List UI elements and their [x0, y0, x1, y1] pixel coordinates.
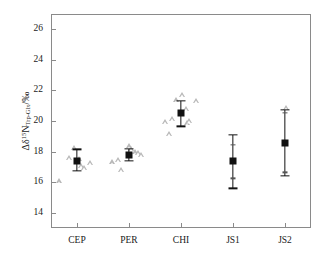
mean-marker-js2 [282, 140, 289, 147]
y-tick-label: 24 [19, 55, 43, 65]
triangle-fill [88, 163, 92, 166]
error-bar-cap-lower [73, 170, 82, 171]
error-bar-cap-lower [281, 175, 290, 176]
mean-marker-cep [74, 157, 81, 164]
x-tick-label-per: PER [120, 236, 137, 246]
y-tick-label: 20 [19, 116, 43, 126]
x-tick-label-js2: JS2 [278, 236, 292, 246]
x-tick-mark [181, 223, 182, 228]
triangle-fill [82, 167, 86, 170]
x-tick-label-cep: CEP [68, 236, 85, 246]
triangle-fill [184, 109, 188, 112]
triangle-fill [139, 154, 143, 157]
error-bar-cap-upper [73, 149, 82, 150]
triangle-fill [167, 134, 171, 137]
y-tick-label: 18 [19, 147, 43, 157]
triangle-fill [180, 95, 184, 98]
y-tick-label: 16 [19, 177, 43, 187]
triangle-fill [187, 121, 191, 124]
error-bar-inner-tick [283, 172, 288, 173]
y-tick-mark [51, 121, 56, 122]
y-tick-mark [51, 29, 56, 30]
y-tick-mark [51, 90, 56, 91]
error-bar-cap-upper [177, 100, 186, 101]
error-bar-inner-tick [231, 144, 236, 145]
triangle-fill [116, 160, 120, 163]
error-bar-inner-tick [283, 112, 288, 113]
error-bar-cap-upper [229, 134, 238, 135]
triangle-fill [67, 157, 71, 160]
y-tick-label: 26 [19, 25, 43, 35]
x-tick-label-js1: JS1 [226, 236, 240, 246]
y-tick-mark [51, 152, 56, 153]
mean-marker-chi [178, 110, 185, 117]
error-bar-inner-tick [231, 178, 236, 179]
figure-container: Δδ15NTrp-Glx/‰ 14161820222426 CEPPERCHIJ… [0, 0, 331, 262]
error-bar-cap-lower [177, 126, 186, 127]
triangle-fill [170, 119, 174, 122]
error-bar-cap-lower [229, 188, 238, 189]
x-tick-mark [77, 223, 78, 228]
mean-marker-js1 [230, 157, 237, 164]
x-tick-mark [129, 223, 130, 228]
y-tick-mark [51, 60, 56, 61]
triangle-fill [110, 162, 114, 165]
mean-marker-per [126, 151, 133, 158]
triangle-fill [194, 101, 198, 104]
y-tick-label: 22 [19, 86, 43, 96]
x-tick-mark [285, 223, 286, 228]
error-bar-cap-upper [125, 148, 134, 149]
x-tick-label-chi: CHI [173, 236, 189, 246]
y-tick-mark [51, 213, 56, 214]
triangle-fill [163, 122, 167, 125]
error-bar-cap-upper [281, 109, 290, 110]
y-tick-label: 14 [19, 208, 43, 218]
error-bar-cap-lower [125, 160, 134, 161]
triangle-fill [57, 181, 61, 184]
x-tick-mark [233, 223, 234, 228]
triangle-fill [119, 170, 123, 173]
